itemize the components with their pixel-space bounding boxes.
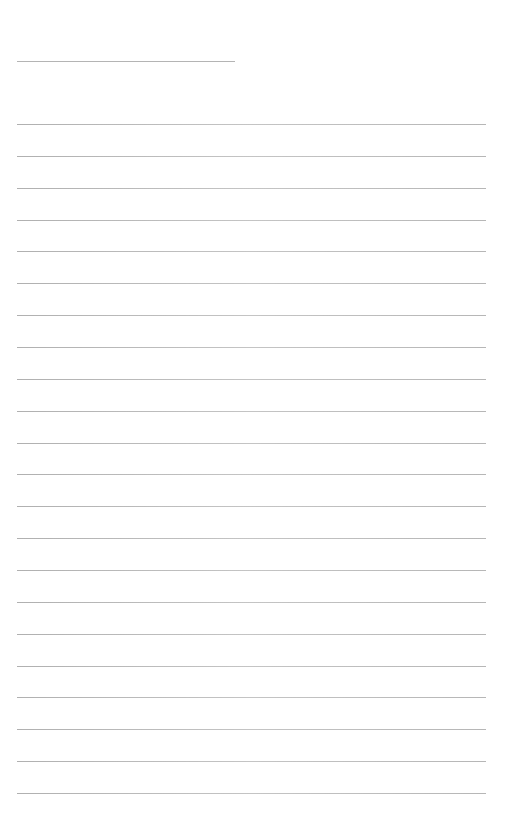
ruled-line bbox=[17, 602, 486, 603]
ruled-line bbox=[17, 506, 486, 507]
lined-paper-page bbox=[0, 0, 505, 830]
ruled-line bbox=[17, 538, 486, 539]
ruled-line bbox=[17, 729, 486, 730]
ruled-line bbox=[17, 793, 486, 794]
ruled-line bbox=[17, 443, 486, 444]
ruled-line bbox=[17, 761, 486, 762]
ruled-line bbox=[17, 697, 486, 698]
title-line bbox=[17, 61, 235, 62]
ruled-line bbox=[17, 411, 486, 412]
ruled-line bbox=[17, 634, 486, 635]
ruled-line bbox=[17, 379, 486, 380]
ruled-line bbox=[17, 315, 486, 316]
ruled-line bbox=[17, 188, 486, 189]
ruled-line bbox=[17, 570, 486, 571]
ruled-line bbox=[17, 283, 486, 284]
ruled-line bbox=[17, 347, 486, 348]
ruled-line bbox=[17, 220, 486, 221]
ruled-line bbox=[17, 666, 486, 667]
ruled-line bbox=[17, 156, 486, 157]
ruled-line bbox=[17, 474, 486, 475]
ruled-line bbox=[17, 124, 486, 125]
ruled-line bbox=[17, 251, 486, 252]
